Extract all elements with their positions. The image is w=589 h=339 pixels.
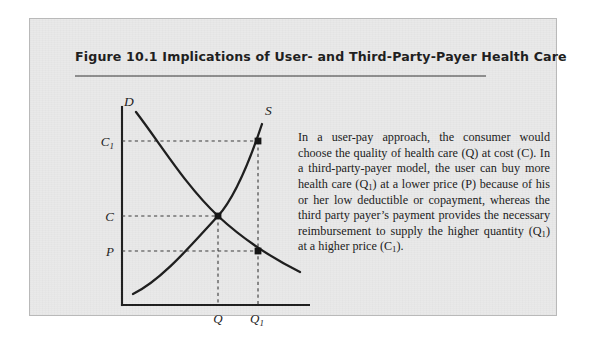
caption-subscript: 1 — [392, 244, 396, 254]
x-tick-label-q: Q — [213, 311, 223, 326]
figure-caption: In a user-pay approach, the consumer wou… — [298, 130, 550, 255]
point-equilibrium — [215, 213, 222, 220]
point-demand-at-low-price — [255, 248, 262, 255]
supply-curve-label: S — [265, 103, 272, 118]
demand-curve-label: D — [123, 94, 134, 109]
x-tick-label-q1: Q1 — [250, 311, 264, 328]
supply-demand-chart: D S C1 C P Q Q1 — [70, 94, 310, 334]
figure-title: Figure 10.1 Implications of User- and Th… — [75, 49, 545, 64]
point-supply-at-high-cost — [255, 138, 262, 145]
y-tick-label-c: C — [105, 209, 114, 224]
y-axis-tick-labels: C1 C P — [101, 134, 115, 259]
y-tick-label-c1: C1 — [101, 134, 114, 151]
marked-points — [215, 138, 262, 255]
caption-subscript: 1 — [542, 229, 546, 239]
figure-box: Figure 10.1 Implications of User- and Th… — [29, 18, 557, 316]
x-axis-tick-labels: Q Q1 — [213, 311, 264, 328]
title-divider-rule — [75, 75, 486, 77]
guide-lines — [122, 141, 258, 305]
caption-subscript: 1 — [368, 182, 372, 192]
scanned-page: Figure 10.1 Implications of User- and Th… — [0, 0, 589, 339]
y-tick-label-p: P — [105, 244, 114, 259]
chart-axes — [122, 107, 310, 305]
chart-svg: D S C1 C P Q Q1 — [70, 94, 310, 334]
curve-labels: D S — [123, 94, 272, 118]
supply-curve — [133, 124, 262, 294]
